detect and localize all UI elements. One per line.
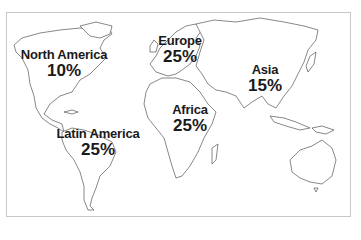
region-label-latin-america: Latin America 25%	[50, 127, 146, 158]
region-label-africa: Africa 25%	[163, 103, 217, 134]
region-name: North America	[16, 48, 112, 61]
region-name: Asia	[240, 63, 290, 76]
madagascar	[212, 144, 218, 164]
region-name: Africa	[163, 103, 217, 116]
southeast-asia-islands	[270, 116, 310, 130]
region-label-north-america: North America 10%	[16, 48, 112, 79]
region-value: 25%	[163, 117, 217, 134]
new-guinea	[312, 126, 334, 134]
australia-landmass	[290, 140, 336, 184]
region-value: 15%	[240, 77, 290, 94]
region-name: Latin America	[50, 127, 146, 140]
tasmania	[314, 188, 318, 192]
region-value: 10%	[16, 62, 112, 79]
region-label-europe: Europe 25%	[150, 34, 210, 65]
caribbean-islands	[64, 110, 78, 114]
region-label-asia: Asia 15%	[240, 63, 290, 94]
region-name: Europe	[150, 34, 210, 47]
region-value: 25%	[50, 141, 146, 158]
region-value: 25%	[150, 48, 210, 65]
japan-islands	[306, 52, 316, 72]
